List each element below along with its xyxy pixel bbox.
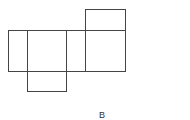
box-net-diagram [0,0,190,120]
top-face [86,10,126,31]
front-face [28,31,67,72]
right-side-face [67,31,86,72]
back-face [86,31,126,72]
label-cutoff: - [1,116,4,120]
bottom-face [28,72,67,92]
label-b: B [99,111,105,120]
left-side-face [9,31,28,72]
